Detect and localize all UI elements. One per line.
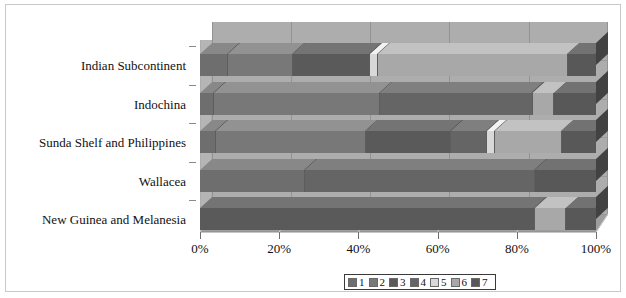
legend-item[interactable]: 5 — [430, 277, 447, 288]
legend-label: 5 — [441, 277, 447, 288]
chart-figure: Indian SubcontinentIndochinaSunda Shelf … — [0, 0, 626, 298]
legend-item[interactable]: 3 — [389, 277, 406, 288]
legend-swatch — [471, 278, 480, 287]
x-axis-tick — [596, 232, 597, 239]
x-axis-tick-label: 60% — [408, 241, 468, 257]
legend-swatch — [410, 278, 419, 287]
legend-swatch — [451, 278, 460, 287]
legend-label: 7 — [482, 277, 488, 288]
x-axis-tick-label: 100% — [566, 241, 626, 257]
x-axis-tick-label: 0% — [170, 241, 230, 257]
legend-label: 3 — [400, 277, 406, 288]
legend-swatch — [348, 278, 357, 287]
legend-label: 6 — [462, 277, 468, 288]
x-axis-tick — [517, 232, 518, 239]
legend-item[interactable]: 6 — [451, 277, 468, 288]
x-axis-tick-label: 80% — [487, 241, 547, 257]
legend-item[interactable]: 4 — [410, 277, 427, 288]
legend-swatch — [430, 278, 439, 287]
x-axis: 0%20%40%60%80%100% — [0, 0, 626, 298]
legend-item[interactable]: 1 — [348, 277, 365, 288]
x-axis-tick-label: 40% — [328, 241, 388, 257]
legend-label: 2 — [380, 277, 386, 288]
legend-swatch — [389, 278, 398, 287]
legend-item[interactable]: 2 — [369, 277, 386, 288]
legend-swatch — [369, 278, 378, 287]
x-axis-tick-label: 20% — [249, 241, 309, 257]
x-axis-tick — [358, 232, 359, 239]
x-axis-tick — [438, 232, 439, 239]
x-axis-tick — [279, 232, 280, 239]
legend-item[interactable]: 7 — [471, 277, 488, 288]
legend-label: 4 — [421, 277, 427, 288]
x-axis-tick — [200, 232, 201, 239]
chart-legend[interactable]: 1234567 — [344, 274, 496, 290]
legend-label: 1 — [359, 277, 365, 288]
